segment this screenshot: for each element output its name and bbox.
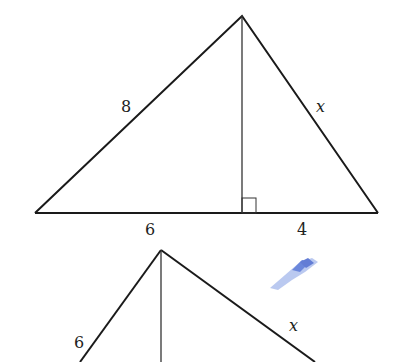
- triangle-1: 8 x 6 4: [35, 16, 378, 239]
- label-base-left: 6: [145, 220, 155, 239]
- triangle-1-sides: [35, 16, 378, 213]
- diagram-canvas: 8 x 6 4 6 x: [0, 0, 412, 362]
- triangle-2-right-side: [161, 250, 315, 362]
- label-right-side-2: x: [289, 316, 298, 335]
- label-left-side-2: 6: [74, 333, 84, 352]
- ink-smudge: [270, 258, 318, 290]
- triangle-2: 6 x: [74, 250, 315, 362]
- label-left-side: 8: [121, 97, 131, 116]
- label-right-side: x: [316, 97, 325, 116]
- triangle-2-left-side: [80, 250, 161, 362]
- label-base-right: 4: [297, 220, 307, 239]
- right-angle-marker: [242, 198, 256, 213]
